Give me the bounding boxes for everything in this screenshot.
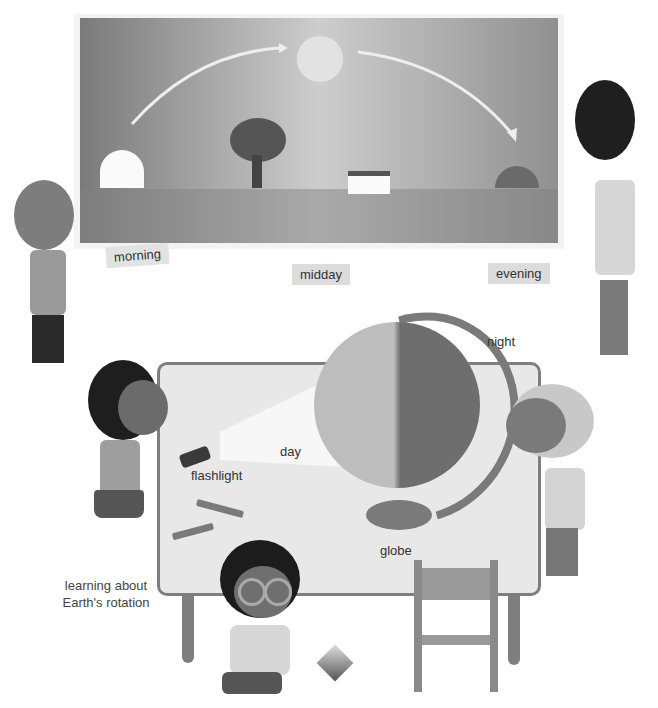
midday-label: midday	[292, 264, 350, 285]
teacher-legs	[600, 280, 628, 355]
table-leg-right	[508, 593, 520, 665]
boy-morning-legs	[32, 315, 64, 363]
globe-label: globe	[380, 543, 412, 558]
boy-morning-body	[30, 250, 66, 315]
chair-rail	[422, 635, 490, 645]
glasses-icon	[264, 578, 292, 606]
chair-back	[422, 568, 490, 600]
boy-morning-figure	[14, 180, 74, 250]
day-label: day	[280, 444, 301, 459]
evening-label: evening	[488, 263, 550, 284]
house-icon	[348, 171, 390, 194]
table-leg-left	[182, 593, 194, 663]
boy-glasses-legs	[222, 672, 282, 694]
boy-right-legs	[546, 528, 578, 576]
globe-icon[interactable]	[314, 322, 480, 488]
rising-sun-icon	[100, 150, 144, 188]
caption-line-2: Earth's rotation	[56, 594, 156, 611]
morning-label-card: morning	[105, 243, 169, 268]
girl-body	[100, 440, 140, 495]
boy-glasses-body	[230, 625, 290, 675]
caption-line-1: learning about	[56, 577, 156, 594]
globe-base	[366, 500, 432, 530]
teacher-head	[575, 80, 635, 160]
boy-right-body	[545, 468, 585, 530]
illustration-caption: learning about Earth's rotation	[56, 577, 156, 611]
teacher-coat	[595, 180, 635, 275]
night-label: night	[487, 334, 515, 349]
glasses-icon	[238, 578, 266, 606]
boy-right-face	[506, 398, 566, 453]
spinning-top-icon[interactable]	[317, 645, 354, 682]
midday-sun-icon	[296, 35, 344, 83]
girl-skirt	[94, 490, 144, 518]
tree-trunk	[252, 155, 262, 188]
flashlight-label: flashlight	[191, 468, 242, 483]
girl-face	[118, 380, 168, 435]
